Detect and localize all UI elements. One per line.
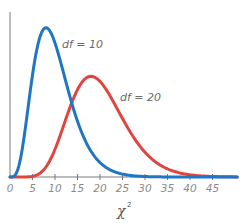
x-tick-label: 35 <box>161 182 175 194</box>
x-tick-label: 45 <box>206 182 220 194</box>
x-tick-label: 30 <box>138 182 152 194</box>
label-df-10: df = 10 <box>62 38 103 51</box>
x-axis-title-superscript: 2 <box>127 201 131 209</box>
x-tick-label: 5 <box>29 182 36 194</box>
x-tick-label: 40 <box>183 182 197 194</box>
chi-square-chart: 051015202530354045 df = 10 df = 20 χ 2 <box>0 0 249 223</box>
x-tick-label: 15 <box>71 182 85 194</box>
x-tick-label: 0 <box>7 182 14 194</box>
x-axis-tick-labels: 051015202530354045 <box>7 182 220 194</box>
x-axis-title: χ <box>116 203 127 219</box>
x-tick-label: 20 <box>93 182 107 194</box>
x-tick-label: 10 <box>48 182 62 194</box>
x-axis-title-base: χ <box>116 203 127 219</box>
x-tick-label: 25 <box>116 182 130 194</box>
label-df-20: df = 20 <box>120 91 161 104</box>
